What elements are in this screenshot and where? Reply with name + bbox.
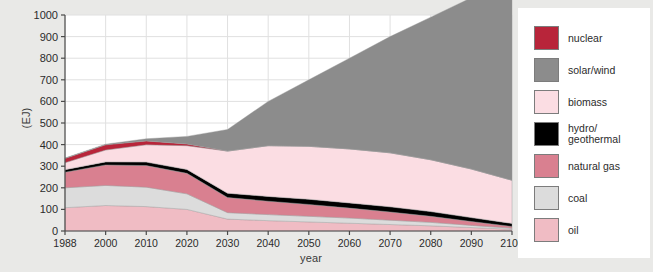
legend-label: coal [568, 193, 587, 204]
legend-item-coal[interactable]: coal [534, 186, 587, 210]
y-tick-label: 900 [40, 31, 58, 43]
legend-label: oil [568, 225, 579, 236]
legend-swatch-icon [534, 122, 559, 146]
legend-label: solar/wind [568, 65, 615, 76]
y-tick-label: 400 [40, 139, 58, 151]
legend-swatch-icon [534, 90, 559, 114]
energy-scenario-chart: 0100200300400500600700800900100019882000… [0, 0, 653, 272]
y-tick-label: 800 [40, 52, 58, 64]
legend-label: biomass [568, 97, 607, 108]
x-axis-title: year [300, 252, 322, 264]
x-tick-label: 2020 [175, 237, 199, 249]
x-tick-label: 2090 [460, 237, 484, 249]
legend-swatch-icon [534, 154, 559, 178]
y-tick-label: 500 [40, 117, 58, 129]
y-tick-label: 100 [40, 203, 58, 215]
x-tick-label: 2000 [94, 237, 118, 249]
y-tick-label: 300 [40, 160, 58, 172]
chart-legend: nuclearsolar/windbiomasshydro/ geotherma… [518, 8, 650, 258]
legend-item-solar-wind[interactable]: solar/wind [534, 58, 615, 82]
legend-label: natural gas [568, 161, 620, 172]
x-tick-label: 1988 [53, 237, 77, 249]
legend-item-oil[interactable]: oil [534, 218, 579, 242]
legend-swatch-icon [534, 26, 559, 50]
x-tick-label: 2010 [135, 237, 159, 249]
y-tick-label: 200 [40, 182, 58, 194]
y-tick-label: 600 [40, 95, 58, 107]
x-axis-ticks: 1988200020102020203020402050206020702080… [53, 231, 524, 249]
x-tick-label: 2070 [378, 237, 402, 249]
legend-item-biomass[interactable]: biomass [534, 90, 607, 114]
legend-label: hydro/ geothermal [568, 123, 621, 145]
legend-swatch-icon [534, 218, 559, 242]
legend-item-nuclear[interactable]: nuclear [534, 26, 602, 50]
x-tick-label: 2050 [297, 237, 321, 249]
x-tick-label: 2030 [216, 237, 240, 249]
y-axis-title: (EJ) [20, 108, 32, 129]
legend-swatch-icon [534, 186, 559, 210]
legend-swatch-icon [534, 58, 559, 82]
y-tick-label: 0 [52, 225, 58, 237]
y-tick-label: 1000 [34, 9, 58, 21]
x-tick-label: 2080 [419, 237, 443, 249]
x-tick-label: 2060 [338, 237, 362, 249]
y-axis-ticks: 01002003004005006007008009001000 [34, 9, 65, 237]
legend-item-natural-gas[interactable]: natural gas [534, 154, 620, 178]
x-tick-label: 2040 [257, 237, 281, 249]
y-tick-label: 700 [40, 74, 58, 86]
legend-item-hydro-geothermal[interactable]: hydro/ geothermal [534, 122, 621, 146]
legend-label: nuclear [568, 33, 602, 44]
